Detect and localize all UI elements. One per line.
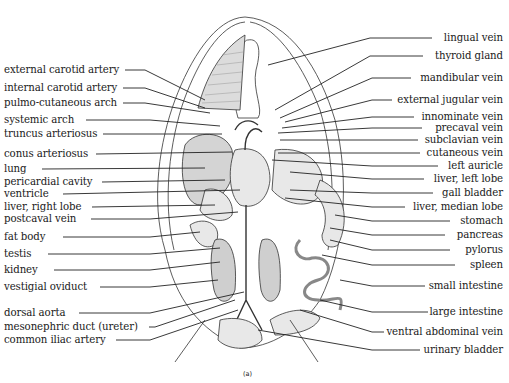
label-liver-right-lobe: liver, right lobe <box>4 201 81 212</box>
figure-caption: (a) <box>243 370 252 378</box>
label-small-intestine: small intestine <box>429 280 503 291</box>
label-testis: testis <box>4 248 31 259</box>
label-liver-left-lobe: liver, left lobe <box>434 173 503 184</box>
label-kidney: kidney <box>4 264 38 275</box>
label-spleen: spleen <box>470 259 503 270</box>
label-precaval-vein: precaval vein <box>435 122 503 133</box>
label-dorsal-aorta: dorsal aorta <box>4 307 65 318</box>
label-external-carotid-artery: external carotid artery <box>4 64 119 75</box>
label-gall-bladder: gall bladder <box>442 187 503 198</box>
label-innominate-vein: innominate vein <box>421 111 503 122</box>
label-large-intestine: large intestine <box>429 306 503 317</box>
truncus <box>245 129 262 150</box>
urinary-bladder <box>218 318 262 348</box>
stomach <box>315 180 344 247</box>
label-internal-carotid-artery: internal carotid artery <box>4 82 117 93</box>
label-common-iliac-artery: common iliac artery <box>4 334 106 345</box>
label-ventral-abdominal-vein: ventral abdominal vein <box>386 326 503 337</box>
label-mandibular-vein: mandibular vein <box>420 72 503 83</box>
label-systemic-arch: systemic arch <box>4 114 74 125</box>
liver-left <box>272 149 323 204</box>
label-pericardial-cavity: pericardial cavity <box>4 176 93 187</box>
label-liver-median-lobe: liver, median lobe <box>413 201 503 212</box>
label-subclavian-vein: subclavian vein <box>425 134 503 145</box>
label-ventricle: ventricle <box>4 188 49 199</box>
kidney-left <box>259 239 280 301</box>
label-urinary-bladder: urinary bladder <box>424 344 503 355</box>
small-intestine <box>296 240 341 310</box>
label-stomach: stomach <box>460 215 503 226</box>
label-lingual-vein: lingual vein <box>444 32 503 43</box>
dorsal-aorta <box>232 205 262 330</box>
label-conus-arteriosus: conus arteriosus <box>4 148 88 159</box>
label-mesonephric-duct: mesonephric duct (ureter) <box>4 321 138 332</box>
ventricle <box>230 149 270 207</box>
label-pulmo-cutaneous-arch: pulmo-cutaneous arch <box>4 97 117 108</box>
label-external-jugular-vein: external jugular vein <box>397 94 503 105</box>
label-truncus-arteriosus: truncus arteriosus <box>4 128 97 139</box>
label-cutaneous-vein: cutaneous vein <box>427 147 503 158</box>
label-pancreas: pancreas <box>457 229 503 240</box>
label-thyroid-gland: thyroid gland <box>435 50 503 61</box>
label-left-auricle: left auricle <box>448 160 503 171</box>
label-pylorus: pylorus <box>465 244 503 255</box>
label-fat-body: fat body <box>4 231 45 242</box>
label-lung: lung <box>4 163 27 174</box>
label-vestigial-oviduct: vestigial oviduct <box>4 281 87 292</box>
label-postcaval-vein: postcaval vein <box>4 213 76 224</box>
